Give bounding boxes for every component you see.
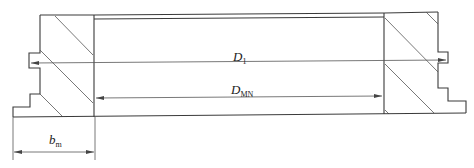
bm-dimension: bm (13, 117, 95, 160)
arrowhead-right-icon (438, 58, 446, 62)
arrowhead-left-icon (96, 96, 104, 100)
bm-label: bm (49, 132, 63, 149)
dmn-label: DMN (230, 82, 254, 99)
right-wall-section (384, 12, 466, 114)
arrowhead-left-icon (31, 61, 39, 65)
d1-label: D1 (232, 49, 246, 66)
cross-section-diagram: D1 DMN bm (0, 0, 474, 168)
arrowhead-right-icon (86, 150, 94, 154)
arrowhead-left-icon (14, 150, 22, 154)
inner-top-line (94, 17, 384, 19)
bottom-edge-line (13, 113, 466, 117)
top-edge-line (94, 13, 384, 15)
dmn-dimension: DMN (96, 82, 382, 100)
left-wall-section (13, 15, 94, 117)
arrowhead-right-icon (374, 94, 382, 98)
